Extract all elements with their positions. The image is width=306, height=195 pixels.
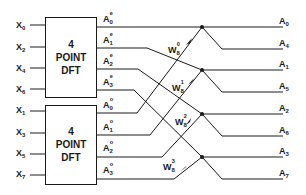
- output-label-a2: A2: [279, 103, 290, 114]
- input-lines: [30, 25, 45, 175]
- dft-top-line-3: DFT: [61, 65, 80, 76]
- output-label-a7: A7: [279, 168, 290, 179]
- dft-bottom-line-2: POINT: [56, 139, 87, 150]
- odd-output-label-0: A0o: [103, 96, 114, 111]
- input-label-x3: X3: [16, 127, 26, 138]
- input-label-x7: X7: [16, 169, 26, 180]
- input-label-x5: X5: [16, 148, 26, 159]
- output-label-a0: A0: [279, 16, 290, 27]
- input-label-x2: X2: [16, 42, 26, 53]
- twiddle-label-w2: W82: [175, 113, 188, 128]
- even-output-label-3: A3e: [103, 73, 114, 88]
- output-lines: [202, 27, 283, 179]
- butterfly-nodes: [200, 25, 204, 159]
- even-output-label-2: A2e: [103, 52, 114, 67]
- odd-output-label-1: A1o: [103, 118, 114, 133]
- output-label-a4: A4: [279, 38, 290, 49]
- odd-output-label-3: A3o: [103, 161, 114, 176]
- input-label-x6: X6: [16, 84, 26, 95]
- dft-bottom-line-1: 4: [68, 126, 74, 137]
- input-label-x0: X0: [16, 20, 26, 31]
- output-label-a3: A3: [279, 146, 290, 157]
- even-output-label-0: A0e: [103, 10, 114, 25]
- twiddle-label-w1: W81: [172, 79, 185, 94]
- even-output-label-1: A1e: [103, 31, 114, 46]
- odd-output-label-2: A2o: [103, 139, 114, 154]
- dft-top-line-2: POINT: [56, 52, 87, 63]
- dft-top-line-1: 4: [68, 39, 74, 50]
- fft-butterfly-diagram: 4 POINT DFT 4 POINT DFT X0 X2 X4 X6 X1 X…: [0, 0, 306, 195]
- arrowheads: [180, 38, 194, 172]
- output-label-a1: A1: [279, 59, 290, 70]
- twiddle-label-w0: W80: [168, 41, 181, 56]
- output-label-a5: A5: [279, 81, 290, 92]
- dft-bottom-line-3: DFT: [61, 152, 80, 163]
- even-paths: [96, 27, 202, 157]
- output-label-a6: A6: [279, 125, 290, 136]
- twiddle-label-w3: W83: [163, 158, 176, 173]
- input-label-x1: X1: [16, 105, 26, 116]
- input-label-x4: X4: [16, 63, 26, 74]
